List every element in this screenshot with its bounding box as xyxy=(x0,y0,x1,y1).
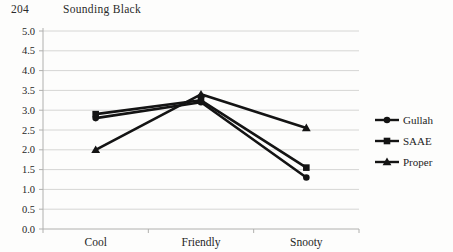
circle-marker-icon xyxy=(374,114,400,126)
svg-text:5.0: 5.0 xyxy=(22,26,35,37)
svg-text:Friendly: Friendly xyxy=(182,236,221,249)
chart-legend: Gullah SAAE Proper xyxy=(374,109,433,172)
legend-label-proper: Proper xyxy=(403,156,432,168)
svg-text:2.0: 2.0 xyxy=(22,144,35,155)
svg-text:0.0: 0.0 xyxy=(22,224,35,235)
svg-text:1.0: 1.0 xyxy=(22,184,35,195)
svg-text:4.0: 4.0 xyxy=(22,65,35,76)
svg-text:Cool: Cool xyxy=(84,236,106,248)
svg-text:0.5: 0.5 xyxy=(22,204,35,215)
legend-label-gullah: Gullah xyxy=(403,114,433,126)
svg-text:Snooty: Snooty xyxy=(290,236,323,249)
svg-text:4.5: 4.5 xyxy=(22,45,35,56)
legend-item-saae: SAAE xyxy=(374,130,433,151)
legend-item-gullah: Gullah xyxy=(374,109,433,130)
legend-item-proper: Proper xyxy=(374,151,433,172)
svg-text:3.0: 3.0 xyxy=(22,105,35,116)
legend-label-saae: SAAE xyxy=(403,135,432,147)
triangle-marker-icon xyxy=(374,156,400,168)
svg-text:1.5: 1.5 xyxy=(22,164,35,175)
book-page: 204 Sounding Black 0.00.51.01.52.02.53.0… xyxy=(0,0,453,252)
svg-text:3.5: 3.5 xyxy=(22,85,35,96)
svg-text:2.5: 2.5 xyxy=(22,125,35,136)
square-marker-icon xyxy=(374,135,400,147)
